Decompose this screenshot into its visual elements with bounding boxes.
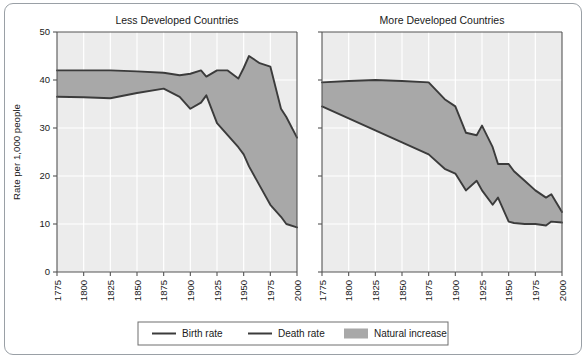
x-tick-label: 1950 [503,280,514,301]
y-tick-label: 10 [39,218,50,229]
x-tick-label: 1925 [212,280,223,301]
y-tick-label: 0 [45,266,50,277]
y-tick-label: 40 [39,74,50,85]
x-tick-label: 1975 [265,280,276,301]
x-tick-label: 1925 [477,280,488,301]
x-tick-label: 1875 [158,280,169,301]
panel-more-developed: 1775180018251850187519001925195019752000… [317,14,568,301]
legend-birth-rate-label: Birth rate [182,328,223,339]
y-axis-label: Rate per 1,000 people [11,104,22,200]
x-tick-label: 1800 [343,280,354,301]
x-tick-label: 2000 [292,280,303,301]
x-tick-label: 1800 [78,280,89,301]
x-tick-label: 1950 [238,280,249,301]
x-tick-label: 1825 [370,280,381,301]
x-tick-label: 1850 [132,280,143,301]
x-tick-label: 2000 [557,280,568,301]
legend-death-rate-label: Death rate [278,328,325,339]
y-tick-label: 30 [39,122,50,133]
x-tick-label: 1900 [185,280,196,301]
legend-natural-increase-swatch [344,329,368,339]
x-tick-label: 1975 [530,280,541,301]
panel-less-developed: 0102030405017751800182518501875190019251… [39,14,302,301]
y-tick-label: 20 [39,170,50,181]
panel-title: More Developed Countries [380,14,505,26]
x-tick-label: 1775 [52,280,63,301]
x-tick-label: 1875 [423,280,434,301]
x-tick-label: 1900 [450,280,461,301]
x-tick-label: 1825 [105,280,116,301]
legend-natural-increase-label: Natural increase [374,328,447,339]
chart-legend: Birth rateDeath rateNatural increase [138,322,448,345]
x-tick-label: 1850 [397,280,408,301]
x-tick-label: 1775 [317,280,328,301]
panel-title: Less Developed Countries [115,14,238,26]
chart-canvas: 0102030405017751800182518501875190019251… [0,0,586,359]
y-tick-label: 50 [39,26,50,37]
chart-figure: 0102030405017751800182518501875190019251… [0,0,586,359]
